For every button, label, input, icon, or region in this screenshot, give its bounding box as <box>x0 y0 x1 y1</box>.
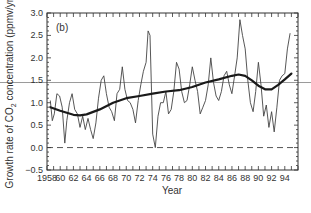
x-tick-label: 94 <box>280 173 290 183</box>
x-tick-label: 86 <box>227 173 237 183</box>
x-tick-label: 60 <box>55 173 65 183</box>
x-tick-label: 76 <box>161 173 171 183</box>
y-axis-title: Growth rate of CO2 concentration (ppmv/y… <box>4 0 17 188</box>
x-axis-title: Year <box>162 185 183 196</box>
x-tick-label: 70 <box>121 173 131 183</box>
x-tick-label: 92 <box>267 173 277 183</box>
co2-growth-rate-chart: −0.50.00.51.01.52.02.53.0 19586062646668… <box>0 0 311 213</box>
x-axis-ticks: 1958606264666870727476788082848688909294 <box>37 13 298 183</box>
x-tick-label: 62 <box>68 173 78 183</box>
x-tick-label: 66 <box>95 173 105 183</box>
x-tick-label: 1958 <box>37 173 57 183</box>
x-tick-label: 68 <box>108 173 118 183</box>
x-tick-label: 82 <box>201 173 211 183</box>
y-tick-label: 2.0 <box>30 53 43 63</box>
x-tick-label: 78 <box>174 173 184 183</box>
x-tick-label: 84 <box>214 173 224 183</box>
y-tick-label: 2.5 <box>30 30 43 40</box>
x-tick-label: 90 <box>253 173 263 183</box>
y-tick-label: 1.0 <box>30 98 43 108</box>
panel-label: (b) <box>56 22 68 33</box>
x-tick-label: 72 <box>134 173 144 183</box>
y-tick-label: 1.5 <box>30 75 43 85</box>
y-tick-label: 0.0 <box>30 143 43 153</box>
growth-rate-series-line <box>50 20 290 148</box>
x-tick-label: 74 <box>148 173 158 183</box>
y-tick-label: 0.5 <box>30 120 43 130</box>
x-tick-label: 80 <box>187 173 197 183</box>
y-tick-label: 3.0 <box>30 8 43 18</box>
x-tick-label: 88 <box>240 173 250 183</box>
x-tick-label: 64 <box>82 173 92 183</box>
